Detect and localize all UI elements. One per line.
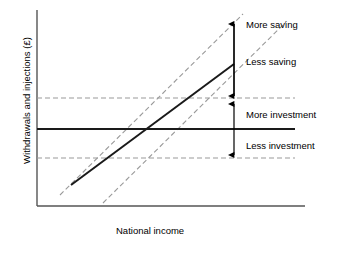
annotation-more-investment: More investment — [246, 110, 316, 120]
y-axis-title: Withdrawals and injections (£) — [21, 31, 32, 171]
saving-solid-line — [71, 64, 234, 185]
annotation-less-investment: Less investment — [246, 141, 315, 151]
figure-canvas: More saving Less saving More investment … — [0, 0, 344, 255]
x-axis-title: National income — [116, 225, 184, 236]
annotation-more-saving: More saving — [246, 20, 298, 30]
economics-diagram — [0, 0, 344, 255]
annotation-less-saving: Less saving — [246, 57, 296, 67]
more-saving-dashed-line — [60, 14, 243, 195]
